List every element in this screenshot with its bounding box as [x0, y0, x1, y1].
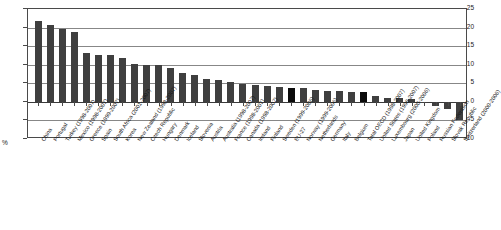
bar: [59, 29, 66, 101]
x-axis-tick-mark: [424, 102, 425, 106]
bar: [288, 88, 295, 102]
bar: [264, 86, 271, 102]
bar: [119, 58, 126, 101]
x-axis-tick-mark: [291, 102, 292, 106]
bar: [239, 84, 246, 102]
x-axis-tick-mark: [448, 102, 449, 106]
x-axis-tick-mark: [376, 102, 377, 106]
x-axis-tick-mark: [219, 102, 220, 106]
bar: [83, 53, 90, 102]
x-axis-tick-mark: [122, 102, 123, 106]
x-axis-tick-mark: [339, 102, 340, 106]
bar: [95, 55, 102, 102]
x-axis-tick-mark: [207, 102, 208, 106]
bar: [71, 32, 78, 102]
bar: [215, 80, 222, 102]
bar: [47, 25, 54, 102]
bar: [227, 82, 234, 102]
bar: [348, 92, 355, 102]
bar: [203, 79, 210, 102]
x-axis-category-labels: ChinaPortugalTurkey (1998-2007)Mexico (1…: [27, 139, 474, 230]
x-axis-tick-mark: [74, 102, 75, 106]
x-axis-tick-mark: [231, 102, 232, 106]
bar: [35, 21, 42, 102]
x-axis-tick-mark: [147, 102, 148, 106]
bar: [300, 88, 307, 101]
x-axis-tick-mark: [62, 102, 63, 106]
bar: [155, 65, 162, 101]
x-axis-tick-mark: [183, 102, 184, 106]
x-axis-tick-mark: [315, 102, 316, 106]
x-axis-tick-mark: [351, 102, 352, 106]
bar: [131, 64, 138, 102]
x-axis-tick-mark: [364, 102, 365, 106]
bar: [107, 55, 114, 102]
y-axis-unit-label: %: [2, 139, 8, 146]
x-axis-tick-mark: [38, 102, 39, 106]
x-axis-tick-mark: [279, 102, 280, 106]
bar: [191, 75, 198, 102]
bar: [360, 92, 367, 102]
x-axis-tick-mark: [195, 102, 196, 106]
bar: [179, 73, 186, 102]
x-axis-tick-mark: [171, 102, 172, 106]
x-axis-tick-mark: [50, 102, 51, 106]
